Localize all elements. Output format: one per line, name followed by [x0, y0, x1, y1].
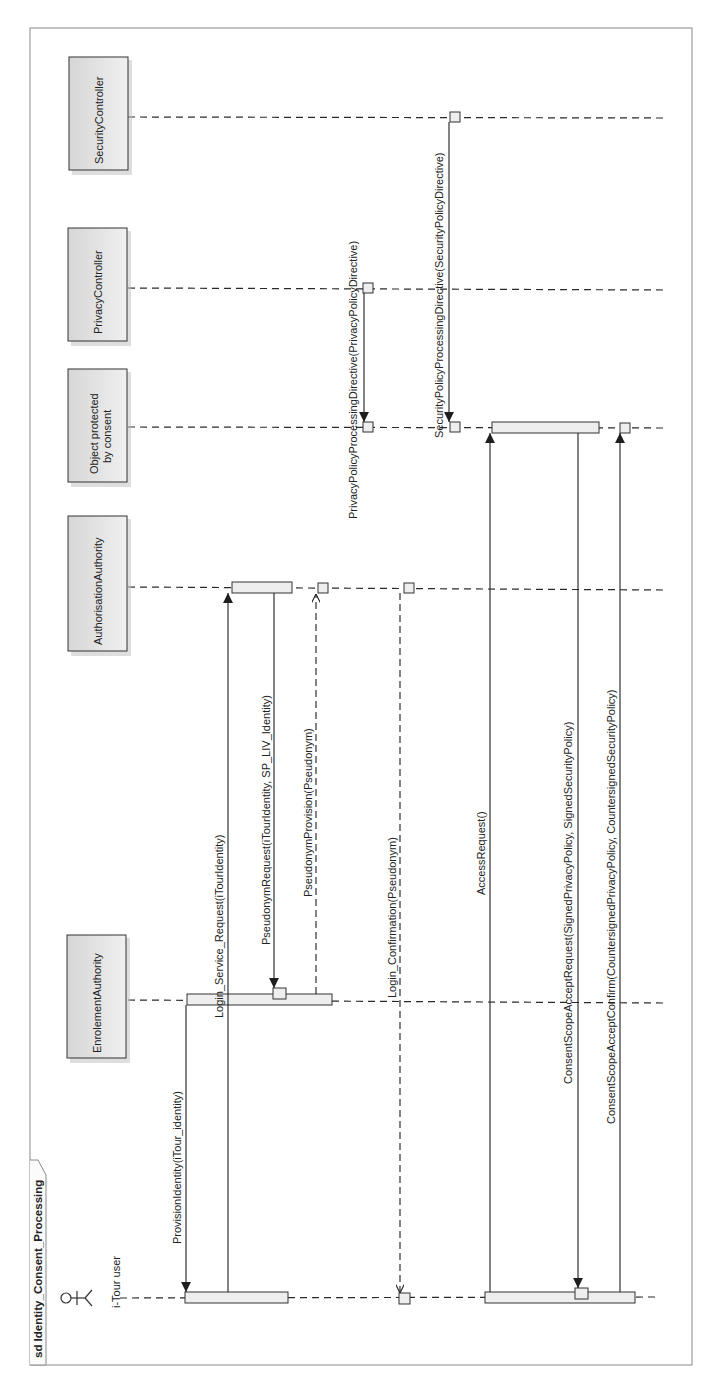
activation-obj-1: [492, 422, 599, 433]
activation-user-2: [485, 1292, 635, 1303]
lifeline-auth: [128, 587, 665, 590]
message-label: PrivacyPolicyProcessingDirective(Privacy…: [347, 241, 359, 519]
exec-auth-login: [404, 583, 414, 593]
participant-label: EnrolementAuthority: [91, 953, 103, 1053]
lifeline-priv: [128, 288, 665, 290]
exec-priv: [363, 283, 373, 293]
message-label: AccessRequest(): [475, 811, 487, 895]
activations: [185, 112, 635, 1304]
exec-obj-confirm: [620, 423, 630, 433]
participant-sec: SecurityController: [69, 57, 132, 175]
message-label: ProvisionIdentity(iTour_identity): [171, 1091, 183, 1244]
message-label: ConsentScopeAcceptRequest(SignedPrivacyP…: [562, 722, 574, 1084]
participant-label: AuthorisationAuthority: [92, 537, 104, 645]
participant-priv: PrivacyController: [68, 228, 131, 346]
participant-auth: AuthorisationAuthority: [68, 516, 131, 656]
message-label: PseudonymRequest(iTourIdentity, SP_LIV_I…: [260, 695, 272, 945]
activation-auth-1: [232, 582, 292, 593]
participant-user: i-Tour user: [61, 1256, 122, 1308]
activation-enrol-1: [187, 994, 332, 1005]
exec-user-login: [399, 1293, 410, 1304]
participant-label: PrivacyController: [92, 250, 104, 334]
participant-label: i-Tour user: [110, 1256, 122, 1308]
exec-obj-sec: [450, 422, 460, 432]
message-label: PseudonymProvision(Pseudonym): [302, 728, 314, 897]
exec-enrol-pseudonym: [273, 988, 286, 999]
participant-label: SecurityController: [93, 76, 105, 164]
participant-enrol: EnrolementAuthority: [67, 935, 130, 1063]
actor-icon: [61, 1290, 92, 1306]
message-label: ConsentScopeAcceptConfirm(CountersignedP…: [605, 690, 617, 1125]
frame-title: sd Identity_Consent_Processing: [32, 1180, 44, 1358]
lifeline-sec: [128, 117, 665, 118]
message-label: Login_Confirmation(Pseudonym): [386, 837, 398, 998]
diagram-frame: sd Identity_Consent_Processing: [30, 28, 692, 1365]
exec-user-consent: [575, 1288, 588, 1299]
exec-auth-provision: [318, 583, 328, 593]
activation-user-1: [185, 1292, 288, 1303]
participant-label-line1: Object protected: [88, 393, 100, 474]
exec-obj-priv: [363, 422, 373, 432]
lifelines: [120, 117, 665, 1298]
message-labels: ProvisionIdentity(iTour_identity) Login_…: [171, 153, 617, 1244]
exec-sec: [450, 112, 460, 122]
message-label: SecurityPolicyProcessingDirective(Securi…: [433, 153, 445, 438]
message-label: Login_Service_Request(iTourIdentity): [213, 835, 225, 1018]
sequence-diagram: sd Identity_Consent_Processing SecurityC…: [0, 0, 709, 1395]
messages: [186, 122, 620, 1293]
participant-obj: Object protected by consent: [68, 369, 131, 487]
participant-label-line2: by consent: [101, 410, 113, 463]
